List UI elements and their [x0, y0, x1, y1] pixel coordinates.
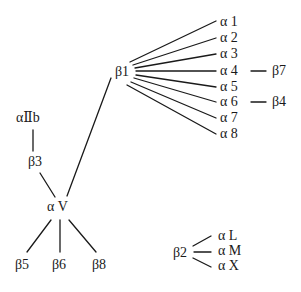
node-alpha-M: α M: [218, 243, 241, 259]
edge-aV-b8: [69, 220, 96, 252]
edge-b1-a6: [134, 78, 216, 102]
node-beta4: β4: [272, 94, 286, 110]
node-alpha-X: α X: [218, 258, 239, 274]
edge-b3-aV: [40, 173, 55, 197]
node-beta1: β1: [115, 64, 129, 80]
edge-b1-a8: [127, 85, 216, 134]
integrin-diagram: β1 α 1 α 2 α 3 α 4 α 5 α 6 α 7 α 8 β7 β4…: [0, 0, 301, 292]
node-beta6: β6: [52, 257, 66, 273]
node-alpha-V: α V: [47, 199, 68, 215]
node-alpha3: α 3: [220, 46, 238, 62]
node-alpha-L: α L: [218, 228, 237, 244]
node-alpha1: α 1: [220, 14, 238, 30]
node-beta8: β8: [92, 257, 106, 273]
node-alpha8: α 8: [220, 126, 238, 142]
node-beta3: β3: [28, 154, 42, 170]
edge-b2-aX: [193, 258, 211, 267]
node-alpha-IIb: αⅡb: [16, 110, 40, 126]
node-alpha7: α 7: [220, 110, 238, 126]
edge-layer: [0, 0, 301, 292]
node-alpha4: α 4: [220, 63, 238, 79]
node-alpha5: α 5: [220, 79, 238, 95]
edge-b1-a7: [131, 82, 216, 118]
node-alpha6: α 6: [220, 94, 238, 110]
node-beta5: β5: [15, 257, 29, 273]
edge-aV-b5: [27, 220, 51, 252]
edge-b1-aV: [67, 78, 111, 196]
node-alpha2: α 2: [220, 30, 238, 46]
node-beta2: β2: [173, 245, 187, 261]
edge-b2-aL: [193, 236, 211, 246]
edge-b1-a5: [136, 75, 216, 87]
node-beta7: β7: [272, 63, 286, 79]
